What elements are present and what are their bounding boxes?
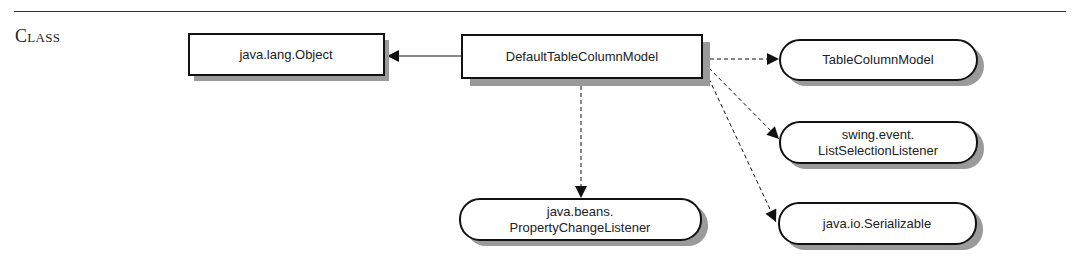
node-label-line2: PropertyChangeListener xyxy=(510,220,652,235)
node-default-table-column-model[interactable]: DefaultTableColumnModel xyxy=(462,35,710,86)
node-label: TableColumnModel xyxy=(822,52,933,67)
class-diagram: java.lang.Object DefaultTableColumnModel… xyxy=(0,0,1078,272)
node-list-selection-listener[interactable]: swing.event. ListSelectionListener xyxy=(780,122,984,169)
node-label-line2: ListSelectionListener xyxy=(818,143,939,158)
node-java-io-serializable[interactable]: java.io.Serializable xyxy=(779,203,983,250)
edge-implements-listselectionlistener xyxy=(704,63,779,139)
node-label-line1: java.beans. xyxy=(546,204,614,219)
node-label: java.lang.Object xyxy=(238,47,333,62)
node-label: java.io.Serializable xyxy=(822,216,931,231)
node-java-lang-object[interactable]: java.lang.Object xyxy=(189,34,389,81)
node-table-column-model[interactable]: TableColumnModel xyxy=(780,40,984,86)
edge-implements-serializable xyxy=(703,66,776,222)
node-property-change-listener[interactable]: java.beans. PropertyChangeListener xyxy=(460,199,708,246)
node-label: DefaultTableColumnModel xyxy=(506,49,659,64)
node-label-line1: swing.event. xyxy=(842,127,914,142)
